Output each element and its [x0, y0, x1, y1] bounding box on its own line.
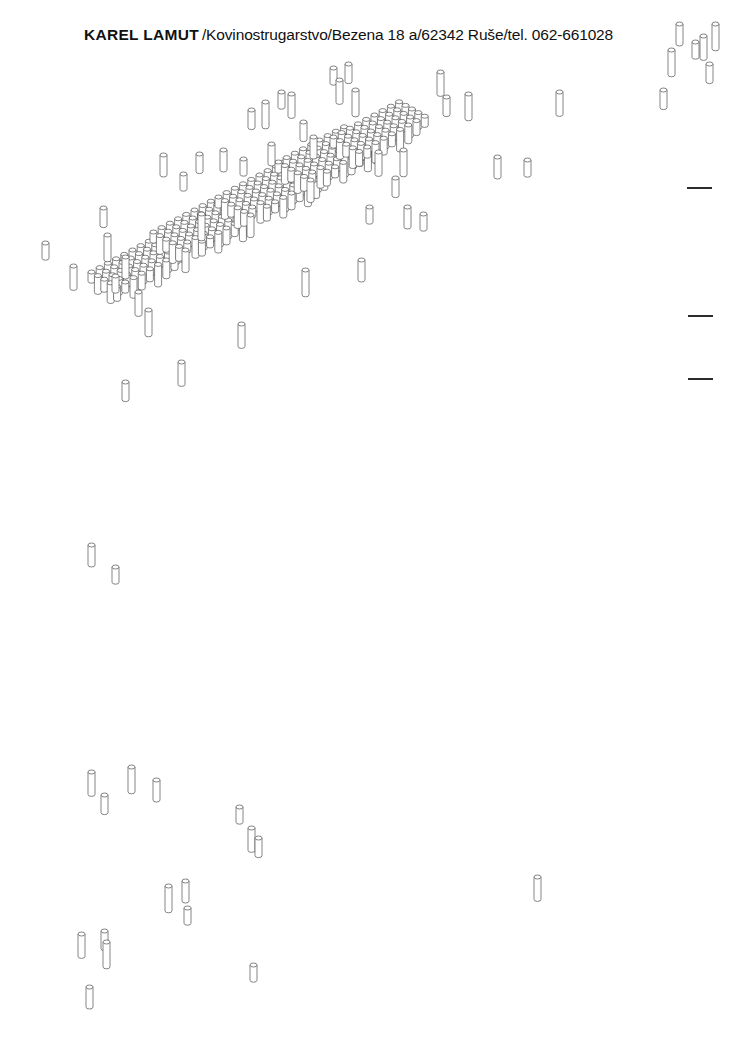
- rod: [225, 218, 232, 239]
- rod: [255, 836, 262, 858]
- rod: [181, 220, 188, 243]
- company-name: KAREL LAMUT: [84, 26, 199, 43]
- rod: [364, 147, 371, 172]
- rod: [104, 261, 111, 280]
- rod: [306, 174, 313, 187]
- rod: [307, 178, 314, 203]
- rod: [192, 236, 199, 259]
- rod: [400, 148, 407, 177]
- rod: [356, 149, 363, 166]
- rod: [376, 125, 383, 138]
- rod: [231, 186, 238, 205]
- rod: [314, 146, 321, 165]
- rod: [321, 150, 328, 163]
- rod: [350, 148, 357, 169]
- rod: [238, 322, 245, 348]
- rod: [371, 113, 378, 134]
- rod: [355, 122, 362, 137]
- rod: [200, 231, 207, 250]
- rod: [319, 158, 326, 183]
- rod: [302, 166, 309, 185]
- rod: [374, 133, 381, 158]
- rod: [150, 251, 157, 270]
- rod: [367, 129, 374, 146]
- rod: [198, 239, 205, 256]
- rod: [156, 234, 163, 255]
- rod: [373, 143, 380, 164]
- rod: [158, 246, 165, 261]
- rod: [132, 268, 139, 293]
- rod: [101, 929, 108, 951]
- rod: [273, 192, 280, 207]
- rod: [254, 181, 261, 200]
- rod: [256, 173, 263, 194]
- rod: [415, 111, 422, 130]
- rod: [400, 111, 407, 126]
- rod: [347, 128, 354, 145]
- rod: [275, 184, 282, 201]
- rod: [392, 116, 399, 135]
- rod: [146, 267, 153, 282]
- rod: [199, 204, 206, 221]
- rod: [248, 177, 255, 202]
- rod: [165, 884, 172, 913]
- rod: [119, 260, 126, 283]
- rod: [285, 171, 292, 186]
- rod: [364, 145, 371, 158]
- rod: [304, 182, 311, 207]
- rod: [340, 160, 347, 183]
- rod: [322, 142, 329, 157]
- rod: [296, 187, 303, 202]
- rod: [300, 171, 307, 190]
- rod: [165, 250, 172, 273]
- rod: [384, 120, 391, 143]
- rod: [290, 183, 297, 204]
- rod: [394, 108, 401, 129]
- rod: [228, 202, 235, 217]
- rod: [345, 134, 352, 151]
- rod: [103, 940, 110, 969]
- rod: [330, 135, 337, 148]
- rod: [405, 123, 412, 144]
- margin-dash-1: [687, 187, 712, 189]
- rod: [494, 155, 501, 179]
- rod: [302, 268, 309, 297]
- rod: [298, 155, 305, 168]
- rod: [351, 138, 358, 163]
- rod: [109, 273, 116, 298]
- rod: [250, 963, 257, 982]
- rod: [88, 770, 95, 796]
- rod: [408, 107, 415, 132]
- rod: [712, 22, 719, 51]
- rod: [194, 228, 201, 253]
- rod: [111, 265, 118, 278]
- rod: [214, 203, 221, 224]
- rod: [247, 213, 254, 238]
- rod-cluster-group: [88, 100, 428, 304]
- rod: [230, 194, 237, 211]
- rod: [321, 173, 328, 190]
- rod: [134, 260, 141, 273]
- rod: [166, 221, 173, 240]
- rod: [158, 226, 165, 249]
- rod: [288, 191, 295, 210]
- rod: [363, 117, 370, 142]
- rod: [335, 149, 342, 166]
- rod: [204, 215, 211, 238]
- rod: [353, 132, 360, 157]
- rod: [345, 136, 352, 151]
- rod: [104, 233, 111, 262]
- rod: [387, 104, 394, 117]
- rod: [556, 90, 563, 116]
- rod: [223, 191, 230, 214]
- rod: [240, 182, 247, 197]
- rod: [337, 141, 344, 160]
- rod: [692, 40, 699, 59]
- rod: [317, 166, 324, 189]
- rod: [206, 207, 213, 232]
- rod: [236, 198, 243, 223]
- rod: [215, 230, 222, 253]
- rod: [352, 88, 359, 117]
- rod: [135, 252, 142, 267]
- rod: [330, 66, 337, 85]
